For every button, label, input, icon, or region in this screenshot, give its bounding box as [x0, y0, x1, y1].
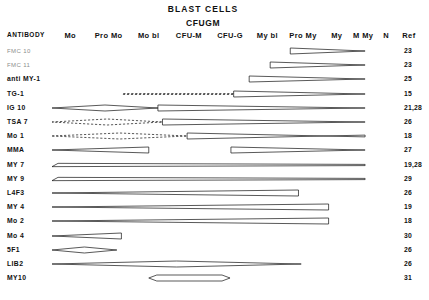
- reference-number: 27: [404, 143, 412, 157]
- column-header-mo-bl: Mo bl: [138, 31, 160, 40]
- reactivity-band-group: [0, 229, 429, 243]
- reference-number: 26: [404, 115, 412, 129]
- reactivity-band-group: [0, 129, 429, 143]
- reference-number: 18: [404, 129, 412, 143]
- reactivity-band-solid: [52, 233, 121, 239]
- antibody-row: LIB226: [0, 257, 429, 271]
- blast-cells-span-arrow: BLAST CELLS: [118, 4, 288, 18]
- reactivity-band-solid: [162, 119, 365, 125]
- column-header-n: N: [383, 31, 389, 40]
- reactivity-band-solid: [249, 76, 365, 82]
- reference-number: 21,28: [404, 101, 422, 115]
- reference-number: 25: [404, 72, 412, 86]
- reference-number: 15: [404, 87, 412, 101]
- reactivity-band-group: [0, 143, 429, 157]
- antibody-row: IG 1021,28: [0, 101, 429, 115]
- antibody-row: 5F126: [0, 243, 429, 257]
- figure-canvas: BLAST CELLS CFUGM ANTIBODY MoPro MoMo bl…: [0, 0, 429, 300]
- antibody-column-header: ANTIBODY: [7, 31, 45, 38]
- reactivity-band-group: [0, 44, 429, 58]
- column-header-my: My: [331, 31, 342, 40]
- reactivity-band-group: [0, 200, 429, 214]
- antibody-row: L4F326: [0, 186, 429, 200]
- reference-number: 18: [404, 214, 412, 228]
- antibody-row: TG-115: [0, 87, 429, 101]
- reactivity-band-solid: [52, 247, 117, 253]
- reference-number: 23: [404, 58, 412, 72]
- column-header-pro-my: Pro My: [289, 31, 316, 40]
- reference-number: 19,28: [404, 158, 422, 172]
- reactivity-band-group: [0, 214, 429, 228]
- column-header-m-my: M My: [353, 31, 373, 40]
- reactivity-band-dashed: [52, 119, 162, 125]
- reactivity-band-solid: [52, 163, 365, 166]
- reactivity-band-solid: [270, 62, 365, 68]
- reactivity-band-solid: [52, 204, 329, 210]
- reactivity-band-solid: [187, 133, 365, 139]
- column-header-pro-mo: Pro Mo: [95, 31, 123, 40]
- reference-number: 26: [404, 186, 412, 200]
- reactivity-band-group: [0, 115, 429, 129]
- reactivity-band-solid: [234, 91, 365, 97]
- antibody-row: MY 719,28: [0, 158, 429, 172]
- reactivity-band-solid: [52, 261, 301, 267]
- reactivity-band-solid: [52, 105, 158, 111]
- reactivity-band-group: [0, 186, 429, 200]
- column-header-cfu-g: CFU-G: [217, 31, 243, 40]
- reference-number: 23: [404, 44, 412, 58]
- reactivity-band-group: [0, 271, 429, 285]
- antibody-row: MY 929: [0, 172, 429, 186]
- reactivity-band-group: [0, 72, 429, 86]
- antibody-row: FMC 1123: [0, 58, 429, 72]
- reactivity-band-dashed: [123, 93, 233, 94]
- column-header-my-bl: My bl: [257, 31, 278, 40]
- cfugm-label: CFUGM: [118, 18, 288, 28]
- antibody-row: FMC 1023: [0, 44, 429, 58]
- column-header-ref: Ref: [402, 31, 415, 40]
- antibody-row: Mo 430: [0, 229, 429, 243]
- antibody-row: MY 419: [0, 200, 429, 214]
- reference-number: 30: [404, 229, 412, 243]
- antibody-row: TSA 726: [0, 115, 429, 129]
- reactivity-band-solid: [158, 105, 365, 111]
- reference-number: 26: [404, 257, 412, 271]
- antibody-row: MY1031: [0, 271, 429, 285]
- reactivity-band-group: [0, 87, 429, 101]
- reference-number: 31: [404, 271, 412, 285]
- reactivity-band-solid: [52, 190, 298, 196]
- reactivity-band-solid: [52, 147, 149, 153]
- reactivity-band-solid: [290, 48, 365, 54]
- blast-cells-label: BLAST CELLS: [118, 4, 288, 14]
- reactivity-band-solid: [149, 275, 230, 281]
- reactivity-band-group: [0, 257, 429, 271]
- reference-number: 29: [404, 172, 412, 186]
- reactivity-band-group: [0, 101, 429, 115]
- reactivity-band-group: [0, 58, 429, 72]
- antibody-row: Mo 218: [0, 214, 429, 228]
- reference-number: 26: [404, 243, 412, 257]
- antibody-row: MMA27: [0, 143, 429, 157]
- antibody-row: anti MY-125: [0, 72, 429, 86]
- antibody-row: Mo 118: [0, 129, 429, 143]
- column-header-mo: Mo: [64, 31, 76, 40]
- reference-number: 19: [404, 200, 412, 214]
- column-header-cfu-m: CFU-M: [176, 31, 202, 40]
- reactivity-band-group: [0, 158, 429, 172]
- reactivity-band-group: [0, 243, 429, 257]
- reactivity-band-dashed: [52, 133, 187, 139]
- reactivity-band-solid: [52, 177, 365, 180]
- reactivity-band-group: [0, 172, 429, 186]
- reactivity-band-solid: [52, 218, 329, 224]
- reactivity-band-solid: [231, 147, 365, 153]
